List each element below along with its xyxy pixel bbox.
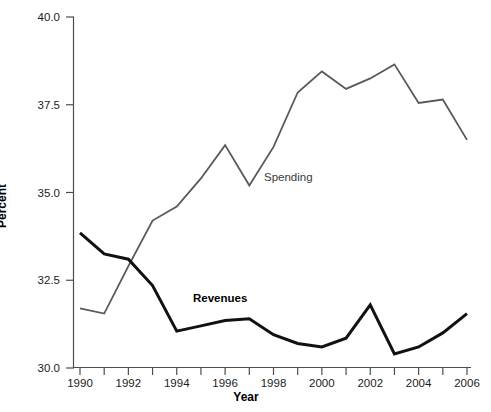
- x-tick-label: 1992: [116, 377, 142, 389]
- x-tick-label: 2000: [309, 377, 335, 389]
- y-tick-marks: [66, 17, 74, 368]
- x-tick-label: 1996: [212, 377, 238, 389]
- x-tick-label: 1990: [67, 377, 93, 389]
- axis-lines: [74, 17, 472, 368]
- y-tick-label: 30.0: [16, 362, 60, 374]
- x-tick-marks: [80, 368, 467, 375]
- y-tick-label: 32.5: [16, 274, 60, 286]
- y-tick-label: 37.5: [16, 99, 60, 111]
- series-label-revenues: Revenues: [193, 292, 247, 304]
- x-tick-label: 1998: [261, 377, 287, 389]
- y-tick-label: 35.0: [16, 187, 60, 199]
- series-label-spending: Spending: [264, 171, 313, 183]
- x-tick-label: 2004: [406, 377, 432, 389]
- y-tick-label: 40.0: [16, 11, 60, 23]
- line-chart: 30.032.535.037.540.0 1990199219941996199…: [0, 0, 491, 412]
- x-axis-title: Year: [233, 390, 258, 404]
- y-axis-title: Percent: [0, 171, 9, 241]
- series-line-spending: [80, 64, 467, 313]
- series-lines: [80, 64, 467, 354]
- plot-area: [0, 0, 491, 412]
- series-line-revenues: [80, 233, 467, 354]
- x-tick-label: 2006: [454, 377, 480, 389]
- x-tick-label: 2002: [357, 377, 383, 389]
- x-tick-label: 1994: [164, 377, 190, 389]
